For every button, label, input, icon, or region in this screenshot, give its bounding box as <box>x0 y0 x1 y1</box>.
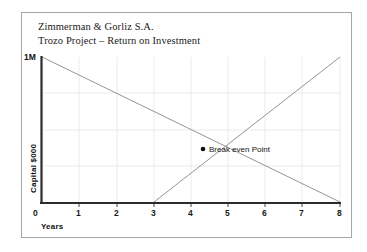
axes-group <box>40 56 341 207</box>
x-tick-label-1: 1 <box>76 208 81 218</box>
x-tick-label-3: 3 <box>151 208 156 218</box>
gridlines-group <box>41 57 341 203</box>
x-tick-label-6: 6 <box>262 208 267 218</box>
break-even-marker-dot <box>201 147 206 152</box>
x-tick-label-5: 5 <box>225 208 230 218</box>
break-even-label: Break even Point <box>209 145 271 154</box>
roi-line-chart: Break even Point 0 1 2 3 4 5 6 7 8 1M Ca… <box>0 0 367 252</box>
x-tick-label-8: 8 <box>337 208 342 218</box>
x-tick-labels-group: 0 1 2 3 4 5 6 7 8 <box>33 208 342 218</box>
x-tick-label-2: 2 <box>114 208 119 218</box>
x-tick-label-0: 0 <box>33 208 38 218</box>
x-tick-label-7: 7 <box>299 208 304 218</box>
x-tick-label-4: 4 <box>188 208 193 218</box>
series-return-on-investment <box>154 57 340 202</box>
y-axis-title: Capital $000 <box>29 144 38 193</box>
x-axis-title: Years <box>41 222 64 231</box>
y-axis-top-label: 1M <box>24 52 36 62</box>
break-even-annotation: Break even Point <box>201 145 271 154</box>
